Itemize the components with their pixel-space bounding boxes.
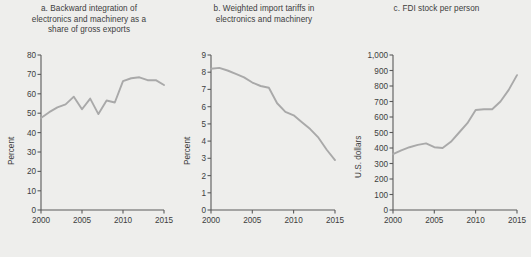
panel-c-xtick-2000: 2000 (379, 216, 407, 225)
panel-c-xtick-2010: 2010 (462, 216, 490, 225)
panel-c-xtick-2005: 2005 (420, 216, 448, 225)
panel-b-xtick-2005: 2005 (238, 216, 266, 225)
panel-b-xtick-2000: 2000 (197, 216, 225, 225)
panel-a-xtick-2015: 2015 (150, 216, 178, 225)
panel-a-xtick-2010: 2010 (109, 216, 137, 225)
panel-b-data-line (211, 68, 335, 160)
panel-b-xtick-2015: 2015 (321, 216, 349, 225)
panel-c-data-line (393, 75, 517, 154)
panel-a-xtick-2005: 2005 (68, 216, 96, 225)
chart-panel-c: c. FDI stock per person U.S. dollars 1,0… (350, 0, 523, 257)
panel-a-xtick-2000: 2000 (27, 216, 55, 225)
panel-a-data-line (41, 77, 164, 118)
chart-panel-b: b. Weighted import tariffs in electronic… (178, 0, 350, 257)
panel-b-xtick-2010: 2010 (280, 216, 308, 225)
chart-panel-a: a. Backward integration of electronics a… (0, 0, 178, 257)
panel-c-xtick-2015: 2015 (503, 216, 531, 225)
